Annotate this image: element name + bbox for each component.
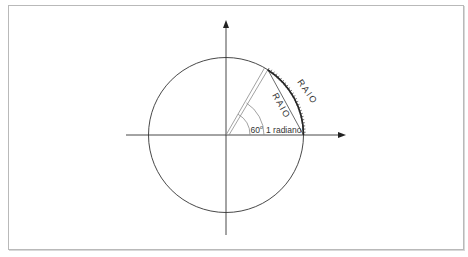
x-axis-arrow-icon	[338, 132, 346, 138]
chord-raio-label: RAIO	[270, 91, 292, 120]
diagram-canvas: 60o 1 radiano RAIO RAIO	[0, 0, 468, 257]
y-axis-arrow-icon	[223, 20, 229, 28]
radian-label: 1 radiano	[266, 125, 302, 135]
y-axis	[223, 20, 229, 235]
arc-raio-label: RAIO	[295, 77, 319, 106]
x-axis	[126, 132, 346, 138]
unit-circle-diagram: 60o 1 radiano RAIO RAIO	[0, 0, 468, 257]
angle-60-label: 60o	[251, 124, 263, 135]
